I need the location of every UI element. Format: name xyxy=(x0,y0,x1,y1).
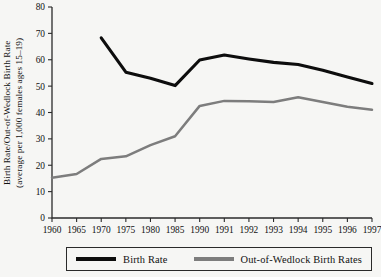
y-axis-tick-label: 80 xyxy=(36,2,46,12)
series-line-out-of-wedlock-birth-rates xyxy=(52,97,372,177)
x-axis-tick-label: 1960 xyxy=(43,225,62,235)
line-chart: 0102030405060708019601965197019751980198… xyxy=(0,0,381,240)
series-line-birth-rate xyxy=(101,38,372,86)
x-axis-tick-label: 1985 xyxy=(166,225,185,235)
x-axis-tick-label: 1993 xyxy=(264,225,283,235)
y-axis-tick-label: 50 xyxy=(36,82,46,92)
x-axis-tick-label: 1997 xyxy=(363,225,381,235)
x-axis-tick-label: 1994 xyxy=(289,225,308,235)
legend-label-out-of-wedlock-birth-rates: Out-of-Wedlock Birth Rates xyxy=(241,254,362,265)
x-axis-tick-label: 1965 xyxy=(67,225,86,235)
legend-swatch-out-of-wedlock-birth-rates xyxy=(194,257,234,260)
x-axis-tick-label: 1970 xyxy=(92,225,111,235)
chart-legend: Birth Rate Out-of-Wedlock Birth Rates xyxy=(66,247,372,271)
legend-label-birth-rate: Birth Rate xyxy=(123,254,168,265)
y-axis-tick-label: 0 xyxy=(40,213,45,223)
legend-swatch-birth-rate xyxy=(76,257,116,260)
legend-item-out-of-wedlock-birth-rates[interactable]: Out-of-Wedlock Birth Rates xyxy=(194,254,362,265)
y-axis-tick-label: 20 xyxy=(36,161,46,171)
x-axis-tick-label: 1992 xyxy=(240,225,259,235)
y-axis-tick-label: 40 xyxy=(36,108,46,118)
x-axis-tick-label: 1991 xyxy=(215,225,234,235)
chart-figure: Birth Rate/Out-of-Wedlock Birth Rate (av… xyxy=(0,0,381,277)
y-axis-tick-label: 30 xyxy=(36,134,46,144)
x-axis-tick-label: 1990 xyxy=(190,225,209,235)
legend-item-birth-rate[interactable]: Birth Rate xyxy=(76,254,168,265)
x-axis-tick-label: 1975 xyxy=(116,225,135,235)
y-axis-tick-label: 10 xyxy=(36,187,46,197)
x-axis-tick-label: 1980 xyxy=(141,225,160,235)
x-axis-tick-label: 1995 xyxy=(313,225,332,235)
y-axis-tick-label: 70 xyxy=(36,29,46,39)
y-axis-tick-label: 60 xyxy=(36,55,46,65)
x-axis-tick-label: 1996 xyxy=(338,225,357,235)
plot-area: Birth Rate/Out-of-Wedlock Birth Rate (av… xyxy=(0,0,381,240)
